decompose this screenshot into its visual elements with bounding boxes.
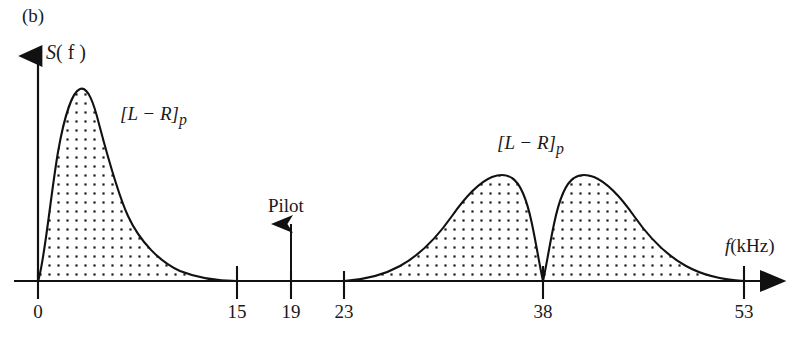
pilot-label: Pilot	[268, 196, 304, 215]
x-tick-label-23: 23	[324, 302, 364, 321]
curve-label-dsb-text: [L − R]	[497, 132, 556, 153]
x-tick-label-53: 53	[724, 302, 764, 321]
y-axis-label: S( f )	[46, 42, 86, 62]
spectrum-plot	[0, 0, 810, 341]
curve-label-baseband-text: [L − R]	[120, 103, 179, 124]
curve-label-baseband-subscript: p	[179, 111, 187, 128]
x-tick-label-19: 19	[271, 302, 311, 321]
panel-label: (b)	[22, 6, 44, 25]
x-axis-label: f(kHz)	[725, 236, 775, 255]
x-tick-label-15: 15	[217, 302, 257, 321]
x-tick-label-38: 38	[523, 302, 563, 321]
x-axis-label-unit: (kHz)	[730, 235, 774, 256]
curve-label-dsb-subscript: p	[556, 140, 564, 157]
curve-label-dsb: [L − R]p	[497, 133, 564, 157]
curve-label-baseband: [L − R]p	[120, 104, 187, 128]
x-tick-label-0: 0	[18, 302, 58, 321]
y-axis-label-symbol: S	[46, 41, 56, 63]
y-axis-label-arg: ( f )	[56, 41, 86, 63]
figure-container: (b) S( f ) f(kHz) [L − R]p [L − R]p Pilo…	[0, 0, 810, 341]
